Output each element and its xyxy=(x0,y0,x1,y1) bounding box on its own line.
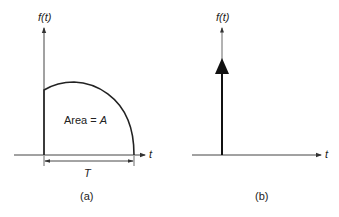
area-label: Area = A xyxy=(64,114,107,126)
area-label-var: A xyxy=(100,114,107,126)
y-axis-label-a: f(t) xyxy=(38,11,51,23)
duration-label: T xyxy=(84,167,91,179)
x-axis-label-b: t xyxy=(325,148,328,160)
panel-a xyxy=(14,28,145,166)
caption-b: (b) xyxy=(255,190,268,202)
x-axis-label-a: t xyxy=(149,148,152,160)
caption-a: (a) xyxy=(80,190,93,202)
y-axis-label-b: f(t) xyxy=(216,11,229,23)
panel-b xyxy=(192,28,321,155)
area-label-prefix: Area = xyxy=(64,114,100,126)
diagram-canvas xyxy=(0,0,339,217)
